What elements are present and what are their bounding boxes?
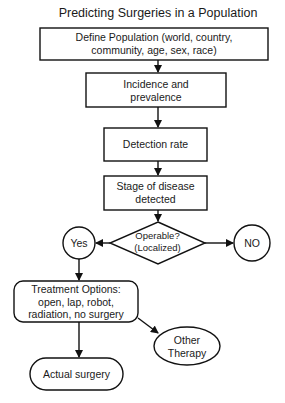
define-population-label: Define Population (world, country, commu… (40, 31, 268, 56)
diagram-title: Predicting Surgeries in a Population (0, 6, 285, 20)
other-therapy-label: Other Therapy (154, 334, 220, 359)
treatment-label: Treatment Options: open, lap, robot, rad… (14, 283, 138, 321)
yes-label: Yes (63, 237, 95, 250)
detection-label: Detection rate (104, 138, 207, 151)
no-label: NO (234, 237, 270, 250)
operable-label: Operable? (Localized) (110, 230, 205, 254)
arrow-treatment-to-other (138, 318, 158, 333)
actual-surgery-label: Actual surgery (30, 368, 123, 381)
incidence-label: Incidence and prevalence (86, 78, 226, 103)
stage-label: Stage of disease detected (104, 180, 207, 205)
